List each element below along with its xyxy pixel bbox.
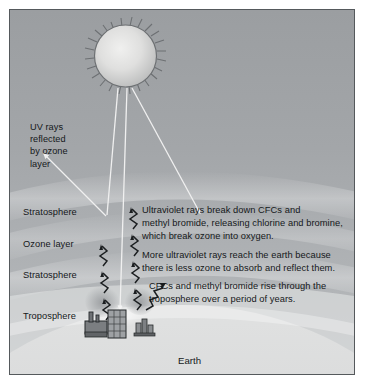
label-ozone-layer: Ozone layer: [23, 239, 74, 250]
diagram-frame: UV rays reflected by ozone layer Stratos…: [9, 9, 355, 375]
label-stratosphere-upper: Stratosphere: [23, 207, 77, 218]
label-troposphere: Troposphere: [23, 311, 76, 322]
paragraph-cfcs-rise-through-troposphere: CFCs and methyl bromide rise through the…: [149, 280, 326, 306]
ozone-diagram-root: UV rays reflected by ozone layer Stratos…: [0, 0, 366, 386]
paragraph-uv-breaks-cfcs: Ultraviolet rays break down CFCs and met…: [142, 204, 343, 244]
label-uv-rays-reflected: UV rays reflected by ozone layer: [30, 121, 68, 170]
paragraph-more-uv-reaches-earth: More ultraviolet rays reach the earth be…: [142, 249, 335, 275]
buildings-icon: [108, 310, 126, 338]
label-earth: Earth: [178, 355, 201, 366]
label-stratosphere-lower: Stratosphere: [23, 270, 77, 281]
